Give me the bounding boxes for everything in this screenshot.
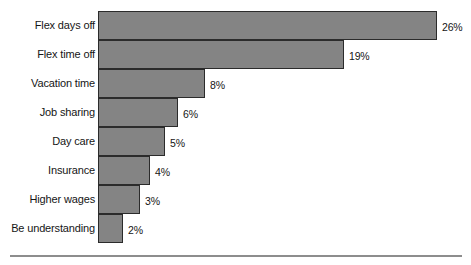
category-label: Be understanding [0,214,95,243]
bar-be-understanding [98,214,123,243]
bar-insurance [98,156,150,185]
category-label: Day care [0,127,95,156]
bar-row: Vacation time 8% [0,69,471,98]
value-label: 8% [210,69,225,98]
bar-row: Day care 5% [0,127,471,156]
category-label: Vacation time [0,69,95,98]
value-label: 4% [155,156,170,185]
bar-row: Insurance 4% [0,156,471,185]
category-label: Flex time off [0,40,95,69]
category-label: Flex days off [0,11,95,40]
bar-row: Flex days off 26% [0,11,471,40]
category-label: Higher wages [0,185,95,214]
bar-flex-time-off [98,40,344,69]
bottom-rule [10,255,462,257]
horizontal-bar-chart: Flex days off 26% Flex time off 19% Vaca… [0,0,471,265]
bar-vacation-time [98,69,205,98]
value-label: 26% [442,11,462,40]
value-label: 19% [349,40,369,69]
value-label: 5% [170,127,185,156]
value-label: 6% [183,98,198,127]
value-label: 3% [145,185,160,214]
bar-job-sharing [98,98,178,127]
bar-flex-days-off [98,11,437,40]
bar-higher-wages [98,185,140,214]
category-label: Job sharing [0,98,95,127]
bar-row: Job sharing 6% [0,98,471,127]
bar-day-care [98,127,165,156]
category-label: Insurance [0,156,95,185]
bar-row: Flex time off 19% [0,40,471,69]
bar-row: Higher wages 3% [0,185,471,214]
plot-area: Flex days off 26% Flex time off 19% Vaca… [0,0,471,248]
bar-row: Be understanding 2% [0,214,471,243]
value-label: 2% [128,214,143,243]
